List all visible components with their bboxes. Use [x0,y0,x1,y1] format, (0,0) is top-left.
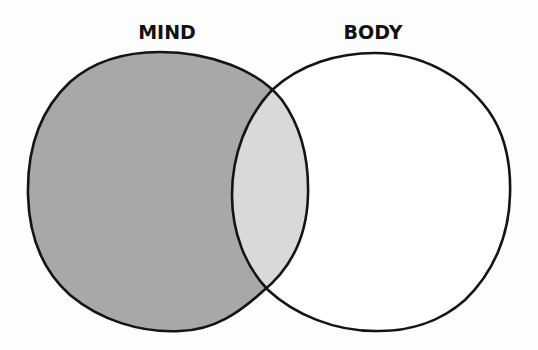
venn-diagram: MIND BODY [0,0,538,350]
venn-svg [0,0,538,350]
